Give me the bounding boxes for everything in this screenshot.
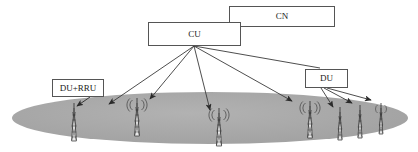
node-box-du-rru[interactable]: DU+RRU [52, 79, 104, 97]
node-label-cu: CU [188, 30, 201, 39]
node-box-cn[interactable]: CN [229, 6, 335, 27]
node-label-cn: CN [276, 12, 289, 21]
node-label-du-rru: DU+RRU [60, 84, 97, 93]
coverage-area-ellipse [12, 92, 408, 144]
node-box-cu[interactable]: CU [148, 22, 241, 46]
diagram-canvas: CN CU DU+RRU DU [0, 0, 418, 152]
node-label-du: DU [320, 74, 333, 83]
node-box-du[interactable]: DU [305, 69, 348, 88]
link-cu-tower-2 [150, 46, 194, 99]
